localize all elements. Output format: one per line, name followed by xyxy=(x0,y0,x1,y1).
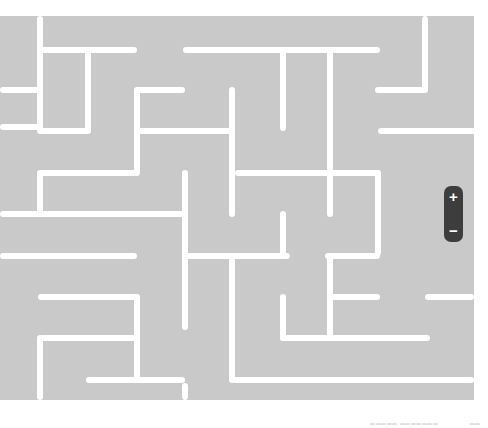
maze-wall xyxy=(232,377,474,383)
attribution-text: ▁▁▁▁▁ ▁▁▁▁▁▁▁ xyxy=(370,417,438,424)
maze-board[interactable] xyxy=(0,16,474,400)
maze-wall xyxy=(229,253,235,383)
footer-right-text: ▁▁ xyxy=(470,417,480,424)
maze-wall xyxy=(182,383,188,400)
maze-wall xyxy=(37,170,43,217)
maze-wall xyxy=(229,87,235,217)
maze-wall xyxy=(183,253,290,259)
maze-wall xyxy=(325,253,380,259)
maze-wall xyxy=(182,170,188,330)
maze-wall xyxy=(40,335,137,341)
maze-wall xyxy=(280,47,286,131)
maze-wall xyxy=(327,47,333,217)
maze-wall xyxy=(40,170,137,176)
zoom-out-button[interactable]: − xyxy=(444,223,463,239)
maze-wall xyxy=(280,335,430,341)
maze-wall xyxy=(330,294,380,300)
maze-wall xyxy=(40,128,90,134)
maze-wall xyxy=(235,170,380,176)
maze-wall xyxy=(0,253,137,259)
maze-wall xyxy=(0,211,186,217)
maze-wall xyxy=(134,294,140,383)
maze-wall xyxy=(280,211,286,256)
maze-wall xyxy=(38,294,137,300)
maze-wall xyxy=(327,253,333,341)
maze-wall xyxy=(425,294,474,300)
maze-wall xyxy=(280,294,286,341)
maze-wall xyxy=(422,16,428,93)
maze-wall xyxy=(0,124,43,130)
maze-wall xyxy=(137,128,235,134)
zoom-in-button[interactable]: + xyxy=(444,189,463,205)
zoom-control: + − xyxy=(444,186,463,242)
maze-wall xyxy=(375,170,381,256)
maze-wall xyxy=(85,47,91,134)
maze-wall xyxy=(378,128,488,134)
maze-wall xyxy=(135,87,185,93)
maze-wall xyxy=(37,16,43,134)
maze-wall xyxy=(134,87,140,176)
maze-wall xyxy=(37,335,43,400)
maze-wall xyxy=(375,87,427,93)
